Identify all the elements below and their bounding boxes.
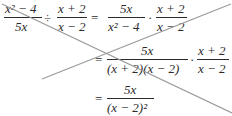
cross-line-1 xyxy=(2,4,232,113)
math-derivation: x² − 4 5x ÷ x + 2 x − 2 = 5x x² − 4 · x … xyxy=(0,0,232,116)
cross-out-mark xyxy=(0,0,232,116)
